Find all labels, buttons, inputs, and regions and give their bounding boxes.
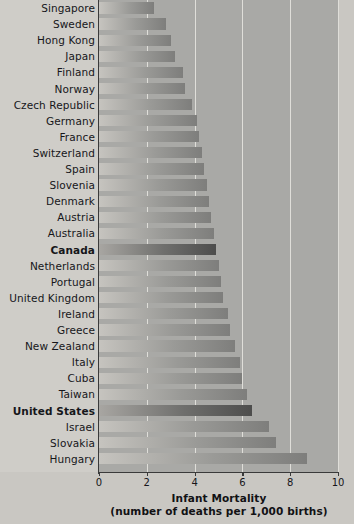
x-tick-label-2: 2: [144, 477, 150, 488]
category-label: New Zealand: [25, 338, 95, 354]
category-label: Taiwan: [59, 386, 95, 402]
bar-row[interactable]: France: [0, 129, 354, 145]
bar-row[interactable]: Singapore: [0, 0, 354, 16]
bar[interactable]: [99, 115, 197, 126]
bar-row[interactable]: New Zealand: [0, 338, 354, 354]
category-label: Portugal: [51, 274, 95, 290]
bar[interactable]: [99, 212, 211, 223]
x-tick-label-4: 4: [191, 477, 197, 488]
bar-row[interactable]: United States: [0, 403, 354, 419]
category-label: Switzerland: [33, 145, 95, 161]
bar[interactable]: [99, 292, 223, 303]
x-tick-4: [195, 472, 196, 476]
bar-row[interactable]: Slovenia: [0, 177, 354, 193]
bar-row[interactable]: Finland: [0, 64, 354, 80]
bar-row[interactable]: Hong Kong: [0, 32, 354, 48]
bar[interactable]: [99, 373, 242, 384]
bar-row[interactable]: Portugal: [0, 274, 354, 290]
bar-row[interactable]: Austria: [0, 209, 354, 225]
category-label: Greece: [57, 322, 95, 338]
category-label: Finland: [57, 64, 95, 80]
bar[interactable]: [99, 389, 247, 400]
category-label: Slovenia: [50, 177, 96, 193]
bar-row[interactable]: Slovakia: [0, 435, 354, 451]
x-tick-8: [290, 472, 291, 476]
x-tick-label-6: 6: [239, 477, 245, 488]
category-label: Norway: [55, 81, 95, 97]
bar[interactable]: [99, 437, 276, 448]
bar[interactable]: [99, 405, 252, 416]
bar-row[interactable]: Israel: [0, 419, 354, 435]
category-label: Canada: [50, 242, 95, 258]
bar-row[interactable]: Italy: [0, 354, 354, 370]
category-label: Netherlands: [30, 258, 95, 274]
bar-row[interactable]: Denmark: [0, 193, 354, 209]
category-label: United Kingdom: [9, 290, 95, 306]
infant-mortality-chart: SingaporeSwedenHong KongJapanFinlandNorw…: [0, 0, 354, 524]
bar[interactable]: [99, 276, 221, 287]
bar[interactable]: [99, 453, 307, 464]
x-tick-2: [147, 472, 148, 476]
bar[interactable]: [99, 421, 269, 432]
category-label: Israel: [66, 419, 95, 435]
bar-row[interactable]: Germany: [0, 113, 354, 129]
category-label: Japan: [65, 48, 95, 64]
bar[interactable]: [99, 147, 202, 158]
bar[interactable]: [99, 324, 230, 335]
bar[interactable]: [99, 67, 183, 78]
bar-row[interactable]: Greece: [0, 322, 354, 338]
bar[interactable]: [99, 83, 185, 94]
y-axis-line: [98, 0, 99, 474]
bar-row[interactable]: Netherlands: [0, 258, 354, 274]
bar-row[interactable]: Czech Republic: [0, 97, 354, 113]
x-axis-line: [98, 472, 339, 473]
category-label: Czech Republic: [14, 97, 95, 113]
bar[interactable]: [99, 308, 228, 319]
bar[interactable]: [99, 51, 175, 62]
category-label: Singapore: [41, 0, 95, 16]
bar-row[interactable]: Spain: [0, 161, 354, 177]
category-label: France: [59, 129, 95, 145]
x-tick-label-8: 8: [287, 477, 293, 488]
bar-row[interactable]: Ireland: [0, 306, 354, 322]
bar-row[interactable]: Cuba: [0, 370, 354, 386]
bar-row[interactable]: Canada: [0, 242, 354, 258]
bar[interactable]: [99, 260, 219, 271]
bar-row[interactable]: Sweden: [0, 16, 354, 32]
category-label: Australia: [48, 225, 95, 241]
bar[interactable]: [99, 179, 207, 190]
category-label: Germany: [46, 113, 95, 129]
bar[interactable]: [99, 357, 240, 368]
bar-rows: SingaporeSwedenHong KongJapanFinlandNorw…: [0, 0, 354, 472]
category-label: Sweden: [53, 16, 95, 32]
category-label: Austria: [57, 209, 95, 225]
bar-row[interactable]: Japan: [0, 48, 354, 64]
bar[interactable]: [99, 340, 235, 351]
x-tick-10: [338, 472, 339, 476]
category-label: Denmark: [46, 193, 95, 209]
bar[interactable]: [99, 196, 209, 207]
category-label: United States: [13, 403, 95, 419]
bar-row[interactable]: Taiwan: [0, 386, 354, 402]
bar[interactable]: [99, 163, 204, 174]
bar[interactable]: [99, 99, 192, 110]
bar[interactable]: [99, 244, 216, 255]
category-label: Hong Kong: [37, 32, 95, 48]
bar[interactable]: [99, 228, 214, 239]
bar-row[interactable]: Hungary: [0, 451, 354, 467]
x-tick-label-0: 0: [96, 477, 102, 488]
category-label: Spain: [65, 161, 95, 177]
bar-row[interactable]: Norway: [0, 81, 354, 97]
category-label: Cuba: [68, 370, 96, 386]
bar[interactable]: [99, 2, 154, 13]
x-tick-label-10: 10: [332, 477, 345, 488]
bar[interactable]: [99, 35, 171, 46]
bar[interactable]: [99, 131, 199, 142]
bar-row[interactable]: Australia: [0, 225, 354, 241]
category-label: Hungary: [49, 451, 95, 467]
category-label: Ireland: [58, 306, 95, 322]
bar-row[interactable]: United Kingdom: [0, 290, 354, 306]
bar-row[interactable]: Switzerland: [0, 145, 354, 161]
x-axis-title-line2: (number of deaths per 1,000 births): [99, 505, 339, 517]
bar[interactable]: [99, 18, 166, 29]
